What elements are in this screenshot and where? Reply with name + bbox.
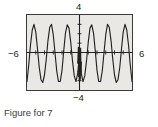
graph-plot-window [26, 14, 133, 91]
graph-svg [27, 15, 132, 90]
y-max-label: 4 [76, 2, 81, 12]
origin-compression-spike [78, 47, 81, 82]
figure-caption: Figure for 7 [4, 108, 53, 118]
x-min-label: −6 [8, 49, 19, 59]
y-min-label: −4 [73, 93, 84, 103]
figure-container: 4 −4 −6 6 Figure for 7 [0, 0, 158, 127]
x-max-label: 6 [139, 49, 144, 59]
